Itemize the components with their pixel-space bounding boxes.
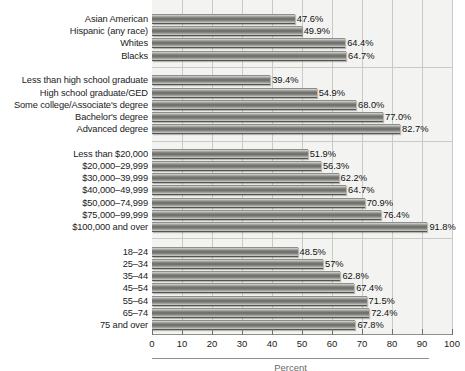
category-label: $30,000–39,999 — [0, 172, 148, 184]
bar-value-label: 48.5% — [298, 246, 326, 258]
bar — [152, 185, 346, 195]
bar-value-label: 72.4% — [369, 307, 397, 319]
bar-row: 35–4462.8% — [0, 270, 465, 282]
tick-mark-30 — [242, 329, 243, 335]
tick-mark-0 — [152, 329, 153, 335]
category-label: Bachelor's degree — [0, 111, 148, 123]
bar — [152, 210, 381, 220]
bar-row: 65–7472.4% — [0, 307, 465, 319]
bar — [152, 88, 317, 98]
category-label: High school graduate/GED — [0, 87, 148, 99]
bar-row: 75 and over67.8% — [0, 319, 465, 331]
category-label: Blacks — [0, 50, 148, 62]
bar-value-label: 57% — [323, 258, 344, 270]
tick-mark-70 — [362, 329, 363, 335]
bar-value-label: 68.0% — [356, 99, 384, 111]
bar — [152, 100, 356, 110]
bar-value-label: 56.3% — [321, 160, 349, 172]
category-label: $50,000–74,999 — [0, 197, 148, 209]
category-label: Some college/Associate's degree — [0, 99, 148, 111]
category-label: Whites — [0, 37, 148, 49]
bar-row: 55–6471.5% — [0, 295, 465, 307]
tick-mark-80 — [392, 329, 393, 335]
tick-label-100: 100 — [432, 338, 465, 349]
category-label: 65–74 — [0, 307, 148, 319]
bar — [152, 75, 270, 85]
category-label: Hispanic (any race) — [0, 25, 148, 37]
category-label: Less than high school graduate — [0, 74, 148, 86]
bar — [152, 124, 400, 134]
group-divider-household-income — [152, 141, 452, 142]
tick-mark-20 — [212, 329, 213, 335]
category-label: 75 and over — [0, 319, 148, 331]
tick-mark-40 — [272, 329, 273, 335]
bar-value-label: 64.7% — [346, 50, 374, 62]
category-label: $20,000–29,999 — [0, 160, 148, 172]
category-label: $40,000–49,999 — [0, 184, 148, 196]
group-divider-age — [152, 238, 452, 239]
category-label: 18–24 — [0, 246, 148, 258]
category-label: $75,000–99,999 — [0, 209, 148, 221]
bar — [152, 222, 427, 232]
bar — [152, 271, 340, 281]
bar-row: $50,000–74,99970.9% — [0, 197, 465, 209]
bar — [152, 283, 354, 293]
group-divider-education — [152, 67, 452, 68]
bar-row: Less than high school graduate39.4% — [0, 74, 465, 86]
bar-value-label: 71.5% — [367, 295, 395, 307]
bar-row: 45–5467.4% — [0, 282, 465, 294]
bar-value-label: 62.2% — [339, 172, 367, 184]
bar — [152, 38, 345, 48]
bar-value-label: 67.4% — [354, 282, 382, 294]
tick-mark-60 — [332, 329, 333, 335]
bar-value-label: 62.8% — [340, 270, 368, 282]
bar-value-label: 70.9% — [365, 197, 393, 209]
bar-value-label: 39.4% — [270, 74, 298, 86]
footer-divider — [152, 358, 429, 359]
bar-row: Hispanic (any race)49.9% — [0, 25, 465, 37]
category-label: 55–64 — [0, 295, 148, 307]
bar — [152, 296, 367, 306]
bar-value-label: 47.6% — [295, 13, 323, 25]
bar-value-label: 64.7% — [346, 184, 374, 196]
bar-value-label: 77.0% — [383, 111, 411, 123]
bar-value-label: 49.9% — [302, 25, 330, 37]
bar-row: Whites64.4% — [0, 37, 465, 49]
horizontal-bar-chart: Asian American47.6%Hispanic (any race)49… — [0, 0, 465, 371]
tick-mark-100 — [452, 329, 453, 335]
x-axis-title: Percent — [152, 362, 429, 371]
bar-value-label: 54.9% — [317, 87, 345, 99]
bar-row: 18–2448.5% — [0, 246, 465, 258]
bar-value-label: 67.8% — [355, 319, 383, 331]
bar-row: Advanced degree82.7% — [0, 123, 465, 135]
bar-row: Some college/Associate's degree68.0% — [0, 99, 465, 111]
bar-value-label: 76.4% — [381, 209, 409, 221]
bar — [152, 173, 339, 183]
bar-row: $100,000 and over91.8% — [0, 221, 465, 233]
tick-mark-90 — [422, 329, 423, 335]
bar — [152, 51, 346, 61]
bar — [152, 112, 383, 122]
category-label: Advanced degree — [0, 123, 148, 135]
bar-row: $75,000–99,99976.4% — [0, 209, 465, 221]
bar-value-label: 91.8% — [427, 221, 455, 233]
tick-mark-50 — [302, 329, 303, 335]
tick-mark-10 — [182, 329, 183, 335]
bar-row: Blacks64.7% — [0, 50, 465, 62]
bar-row: $20,000–29,99956.3% — [0, 160, 465, 172]
bar — [152, 14, 295, 24]
bar-row: Less than $20,00051.9% — [0, 148, 465, 160]
bar — [152, 308, 369, 318]
category-label: 25–34 — [0, 258, 148, 270]
bar-row: $40,000–49,99964.7% — [0, 184, 465, 196]
bar — [152, 247, 298, 257]
bar — [152, 26, 302, 36]
bar — [152, 161, 321, 171]
category-label: Less than $20,000 — [0, 148, 148, 160]
bar-value-label: 82.7% — [400, 123, 428, 135]
bar-row: Bachelor's degree77.0% — [0, 111, 465, 123]
category-label: Asian American — [0, 13, 148, 25]
bar — [152, 259, 323, 269]
bar-value-label: 51.9% — [308, 148, 336, 160]
bar-row: 25–3457% — [0, 258, 465, 270]
